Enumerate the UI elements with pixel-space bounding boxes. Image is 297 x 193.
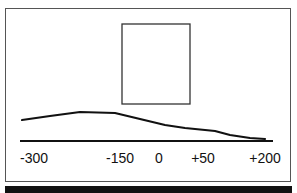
axis-label-minus-300: -300 — [20, 150, 48, 166]
figure-caption-band — [5, 186, 292, 193]
axis-label-zero: 0 — [155, 150, 163, 166]
axis-label-minus-150: -150 — [106, 150, 134, 166]
axis-label-plus-50: +50 — [191, 150, 215, 166]
axis-label-plus-200: +200 — [249, 150, 281, 166]
inner-rectangle — [122, 24, 190, 104]
distribution-curve — [22, 112, 265, 139]
